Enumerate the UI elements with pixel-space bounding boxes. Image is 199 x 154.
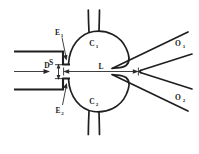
lower-inlet-wall [14,79,70,90]
label-output-upper-base: O [175,39,181,48]
output-upper-upper-wall [141,54,192,70]
splitter-vertex [139,70,141,72]
label-supply: S [49,58,53,67]
label-output-lower: O 2 [175,93,186,103]
label-splitter-distance: L [98,62,103,71]
lower-vent-tube-right-wall [99,112,100,135]
label-edge-lower-base: E [55,106,60,115]
upper-vent-tube-left-wall [88,10,89,32]
label-chamber-lower: C 2 [89,97,98,107]
upper-vent-tube-right-wall [99,10,100,31]
lower-vent-tube-left-wall [88,111,89,134]
label-chamber-lower-sub: 2 [96,102,99,107]
label-output-upper: O 1 [175,39,186,49]
label-edge-lower: E 2 [55,106,64,116]
label-chamber-lower-base: C [89,97,94,106]
figure-root: D S L E 1 E 2 C 1 C 2 O 1 O 2 [0,0,199,154]
nozzle-width-dimension [55,64,62,80]
fluidic-amplifier-diagram: D S L E 1 E 2 C 1 C 2 O 1 O 2 [0,0,199,154]
label-edge-upper-sub: 1 [61,33,64,38]
label-chamber-upper-sub: 1 [96,44,99,49]
label-output-lower-sub: 2 [183,98,186,103]
label-chamber-upper-base: C [89,39,94,48]
output-upper-lower-wall [113,32,189,68]
label-edge-upper-base: E [55,28,60,37]
label-output-upper-sub: 1 [183,44,186,49]
label-chamber-upper: C 1 [89,39,98,49]
supply-flow-arrow [14,69,50,74]
lower-chamber-outline [69,75,130,112]
label-edge-lower-sub: 2 [61,111,64,116]
upper-inlet-wall [14,52,70,65]
label-output-lower-base: O [175,93,181,102]
label-edge-upper: E 1 [55,28,64,38]
output-lower-lower-wall [141,73,192,89]
